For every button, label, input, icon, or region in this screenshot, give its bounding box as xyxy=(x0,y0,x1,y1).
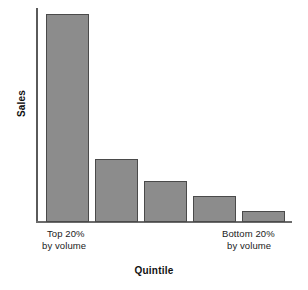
bar-2[interactable] xyxy=(95,159,138,222)
y-axis-title: Sales xyxy=(16,74,27,134)
x-tick-label-last: Bottom 20% by volume xyxy=(222,228,275,251)
bar-4[interactable] xyxy=(193,196,236,222)
bar-5[interactable] xyxy=(242,211,285,222)
bar-chart: Top 20% by volume Bottom 20% by volume Q… xyxy=(0,0,308,290)
x-tick-label-last-line2: by volume xyxy=(222,240,275,252)
x-tick-label-last-line1: Bottom 20% xyxy=(222,228,275,240)
x-tick-label-first: Top 20% by volume xyxy=(42,228,86,251)
x-tick-label-first-line1: Top 20% xyxy=(42,228,86,240)
bar-3[interactable] xyxy=(144,181,187,222)
x-axis-title: Quintile xyxy=(0,265,308,276)
bar-1[interactable] xyxy=(46,14,89,222)
x-tick-label-first-line2: by volume xyxy=(42,240,86,252)
